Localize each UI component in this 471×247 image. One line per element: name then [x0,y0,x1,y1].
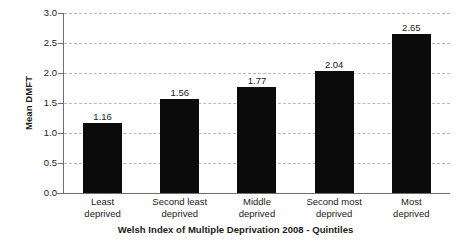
y-axis-tick-label: 0.5 [33,158,57,168]
bar-value-label: 2.65 [402,22,421,33]
x-axis-category-label: Second mostdeprived [296,196,373,222]
bar-value-label: 1.56 [171,87,190,98]
bar [160,99,199,193]
x-axis-category-label: Second leastdeprived [141,196,218,222]
x-axis-category-label: Middledeprived [218,196,295,222]
x-axis-category-label-line: Most [373,196,450,208]
x-axis-category-label-line: Least [64,196,141,208]
x-axis-category-label-line: Middle [218,196,295,208]
x-axis-category-label-line: deprived [141,208,218,220]
x-axis-category-label-line: deprived [64,208,141,220]
y-axis-tick-mark [58,13,64,14]
y-axis-tick-label: 3.0 [33,8,57,18]
y-axis-tick-mark [58,43,64,44]
bar-value-label: 1.16 [93,111,112,122]
y-axis-tick-mark [58,163,64,164]
bar-group: 2.04 [296,13,373,193]
bar-group: 1.56 [141,13,218,193]
bar-group: 1.16 [64,13,141,193]
bar-value-label: 2.04 [325,59,344,70]
bar-group: 1.77 [218,13,295,193]
x-axis-category-label: Leastdeprived [64,196,141,222]
bar [237,87,276,193]
x-axis-line [57,193,450,194]
x-axis-category-label: Mostdeprived [373,196,450,222]
x-axis-category-label-line: deprived [218,208,295,220]
x-axis-category-label-line: deprived [373,208,450,220]
x-axis-category-label-line: deprived [296,208,373,220]
y-axis-tick-label: 2.5 [33,38,57,48]
y-axis-tick-mark [58,73,64,74]
y-axis-tick-labels: 3.02.52.01.51.00.50.0 [33,0,57,247]
x-axis-title: Welsh Index of Multiple Deprivation 2008… [0,224,471,235]
bars-layer: 1.161.561.772.042.65 [64,13,450,193]
bar-group: 2.65 [373,13,450,193]
y-axis-tick-mark [58,103,64,104]
x-axis-category-label-line: Second most [296,196,373,208]
bar [83,123,122,193]
y-axis-tick-mark [58,133,64,134]
bar-chart: Mean DMFT 3.02.52.01.51.00.50.0 1.161.56… [0,0,471,247]
y-axis-tick-label: 2.0 [33,68,57,78]
y-axis-tick-label: 1.5 [33,98,57,108]
bar [315,71,354,193]
y-axis-tick-mark [58,193,64,194]
bar [392,34,431,193]
y-axis-tick-label: 0.0 [33,188,57,198]
y-axis-tick-label: 1.0 [33,128,57,138]
bar-value-label: 1.77 [248,75,267,86]
x-axis-category-label-line: Second least [141,196,218,208]
x-axis-category-labels: LeastdeprivedSecond leastdeprivedMiddled… [64,196,450,222]
